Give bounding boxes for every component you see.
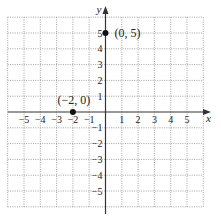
- y-tick-label: −2: [92, 138, 103, 149]
- point-label: (−2, 0): [58, 93, 91, 107]
- x-tick-label: 1: [119, 114, 124, 125]
- coordinate-plane: xy −5−4−3−2−112345−5−4−3−2−112345 (0, 5)…: [0, 0, 221, 216]
- x-tick-label: −2: [68, 114, 79, 125]
- y-axis-label: y: [96, 3, 102, 15]
- x-tick-label: 2: [136, 114, 141, 125]
- x-axis-label: x: [205, 112, 211, 124]
- point-label: (0, 5): [115, 26, 141, 40]
- y-tick-label: −1: [92, 122, 103, 133]
- y-tick-label: 4: [98, 43, 103, 54]
- x-tick-label: −4: [35, 114, 46, 125]
- data-point: [70, 109, 76, 115]
- y-tick-label: −5: [92, 186, 103, 197]
- axes: xy: [8, 3, 211, 214]
- data-point: [103, 30, 109, 36]
- y-tick-label: −4: [92, 170, 103, 181]
- x-tick-label: −3: [51, 114, 62, 125]
- y-tick-label: 3: [98, 59, 103, 70]
- y-axis-arrow-icon: [103, 6, 109, 14]
- x-tick-label: 3: [152, 114, 157, 125]
- y-tick-label: 1: [98, 91, 103, 102]
- y-tick-label: 5: [98, 28, 103, 39]
- y-tick-label: 2: [98, 75, 103, 86]
- x-tick-label: 5: [185, 114, 190, 125]
- x-tick-label: 4: [168, 114, 173, 125]
- x-tick-label: −5: [19, 114, 30, 125]
- y-tick-label: −3: [92, 154, 103, 165]
